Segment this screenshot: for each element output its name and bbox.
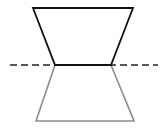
reflection-diagram (0, 0, 165, 128)
reflected-trapezoid (36, 65, 134, 121)
original-trapezoid (33, 8, 133, 65)
diagram-canvas (0, 0, 165, 128)
